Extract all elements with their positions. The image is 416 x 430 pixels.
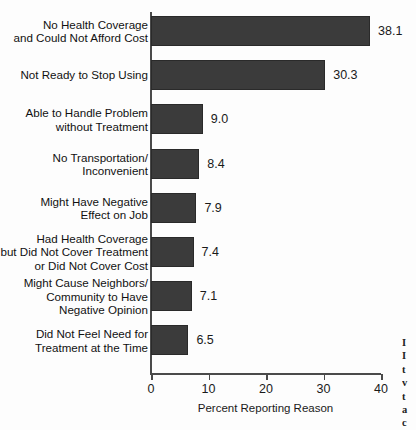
plot-area: No Health Coverage and Could Not Afford … <box>0 0 416 430</box>
bar <box>151 193 196 223</box>
fragment-line: t <box>402 390 416 403</box>
bar-value-label: 30.3 <box>333 68 357 82</box>
x-tick-mark <box>151 374 153 380</box>
bar-category-label: Had Health Coverage but Did Not Cover Tr… <box>0 232 148 272</box>
fragment-line: a <box>402 403 416 416</box>
fragment-line: v <box>402 376 416 389</box>
bar-category-label: Not Ready to Stop Using <box>0 68 148 81</box>
bar-value-label: 7.1 <box>200 289 217 303</box>
fragment-line: c <box>402 416 416 429</box>
bar-value-label: 7.9 <box>204 201 221 215</box>
x-tick-mark <box>266 374 268 380</box>
x-tick-label: 30 <box>317 382 331 396</box>
bar-category-label: Did Not Feel Need for Treatment at the T… <box>0 327 148 354</box>
bar-category-label: Might Have Negative Effect on Job <box>0 194 148 221</box>
fragment-line: t <box>402 363 416 376</box>
x-tick-label: 10 <box>202 382 216 396</box>
bar-category-label: No Health Coverage and Could Not Afford … <box>0 18 148 45</box>
bar-value-label: 7.4 <box>202 245 219 259</box>
bar <box>151 237 194 267</box>
bar-value-label: 9.0 <box>211 112 228 126</box>
bar <box>151 16 370 46</box>
x-axis-title: Percent Reporting Reason <box>150 402 381 414</box>
fragment-line: I <box>402 349 416 362</box>
bar <box>151 325 188 355</box>
bar-value-label: 38.1 <box>378 24 402 38</box>
bar-category-label: No Transportation/ Inconvenient <box>0 150 148 177</box>
bar-value-label: 6.5 <box>196 333 213 347</box>
bar-chart-figure: No Health Coverage and Could Not Afford … <box>0 0 416 430</box>
x-tick-label: 40 <box>374 382 388 396</box>
bar-category-label: Able to Handle Problem without Treatment <box>0 106 148 133</box>
x-tick-label: 20 <box>259 382 273 396</box>
bar <box>151 60 325 90</box>
x-tick-mark <box>209 374 211 380</box>
bar-value-label: 8.4 <box>207 157 224 171</box>
bar <box>151 281 192 311</box>
bar <box>151 149 199 179</box>
adjacent-page-text-fragment: IItvtac <box>402 336 416 430</box>
x-tick-mark <box>324 374 326 380</box>
fragment-line: I <box>402 336 416 349</box>
x-tick-mark <box>381 374 383 380</box>
x-tick-label: 0 <box>148 382 155 396</box>
bar <box>151 104 203 134</box>
bar-category-label: Might Cause Neighbors/ Community to Have… <box>0 276 148 316</box>
